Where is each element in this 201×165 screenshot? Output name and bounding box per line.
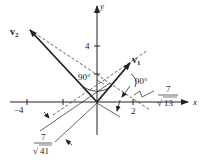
- angle-label-left: 90°: [78, 72, 91, 82]
- y-tick-4: 4: [85, 41, 90, 51]
- orthogonal-vectors-diagram: x y −4 2 4 v2 v1 90° 90° 7 √ 13 7 √: [0, 0, 201, 165]
- y-axis: [94, 6, 100, 135]
- distance-arrow-v2-a: [44, 112, 49, 118]
- svg-text:√: √: [157, 98, 162, 108]
- leader-line-v1: [134, 91, 154, 97]
- svg-text:7: 7: [166, 84, 171, 94]
- y-axis-label: y: [99, 1, 104, 11]
- x-tick-neg4: −4: [14, 105, 24, 115]
- svg-text:√: √: [33, 146, 38, 156]
- svg-text:7: 7: [41, 132, 46, 142]
- distance-arrow-v1-a: [122, 86, 130, 97]
- svg-text:41: 41: [40, 146, 49, 156]
- v2-label: v2: [10, 26, 19, 39]
- v1-label: v1: [132, 54, 141, 67]
- distance-arrow-v2-b: [66, 140, 72, 145]
- angle-label-right: 90°: [135, 76, 148, 86]
- svg-text:13: 13: [164, 98, 174, 108]
- distance-v2-fraction: 7 √ 41: [33, 132, 52, 156]
- parallel-lines: [40, 83, 120, 142]
- distance-v1-fraction: 7 √ 13: [157, 84, 178, 108]
- x-tick-2: 2: [131, 106, 136, 116]
- x-axis-label: x: [192, 97, 197, 107]
- diagram-canvas: x y −4 2 4 v2 v1 90° 90° 7 √ 13 7 √: [0, 0, 201, 165]
